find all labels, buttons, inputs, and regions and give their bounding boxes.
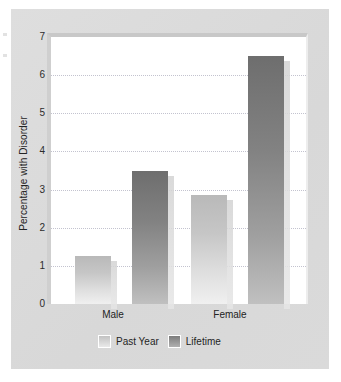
x-tick-male: Male bbox=[53, 309, 173, 320]
legend-label-past-year: Past Year bbox=[116, 336, 159, 347]
bar-body bbox=[191, 195, 227, 304]
chart-legend: Past Year Lifetime bbox=[98, 331, 221, 351]
legend-swatch-lifetime-icon bbox=[168, 335, 181, 348]
y-axis-title: Percentage with Disorder bbox=[18, 89, 29, 259]
y-tick-1: 1 bbox=[5, 261, 45, 271]
bar-female-past-year[interactable] bbox=[191, 195, 227, 304]
x-tick-female: Female bbox=[170, 309, 290, 320]
bar-male-lifetime[interactable] bbox=[132, 171, 168, 305]
bar-shadow bbox=[227, 200, 233, 309]
y-tick-6: 6 bbox=[5, 70, 45, 80]
bar-shadow bbox=[168, 176, 174, 310]
bar-female-lifetime[interactable] bbox=[248, 56, 284, 304]
bar-chart-figure: 7 6 5 4 3 2 1 0 Percentage with Disorder… bbox=[0, 0, 341, 382]
bar-shadow bbox=[111, 261, 117, 309]
legend-item-lifetime[interactable]: Lifetime bbox=[168, 335, 221, 348]
legend-swatch-past-year-icon bbox=[98, 335, 111, 348]
legend-label-lifetime: Lifetime bbox=[186, 336, 221, 347]
bar-male-past-year[interactable] bbox=[75, 256, 111, 304]
legend-item-past-year[interactable]: Past Year bbox=[98, 335, 159, 348]
bar-body bbox=[248, 56, 284, 304]
plot-area bbox=[51, 37, 306, 304]
bar-body bbox=[75, 256, 111, 304]
y-tick-0: 0 bbox=[5, 299, 45, 309]
bar-body bbox=[132, 171, 168, 305]
y-tick-7: 7 bbox=[5, 32, 45, 42]
bar-shadow bbox=[284, 61, 290, 309]
